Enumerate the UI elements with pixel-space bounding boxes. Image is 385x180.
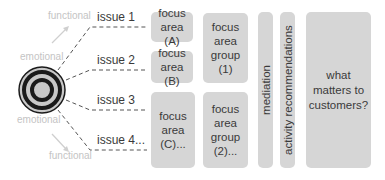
activity-recommendations-box: activity recommendations	[280, 12, 295, 168]
focus-area-c-box: focus area (C)...	[151, 92, 195, 168]
issue-2-label: issue 2	[97, 53, 135, 67]
bottom-functional-label: functional	[49, 150, 92, 161]
target-icon	[19, 67, 65, 113]
focus-area-b-label: focus area (B)	[153, 46, 191, 88]
focus-area-a-box: focus area (A)	[151, 12, 193, 42]
focus-area-b-box: focus area (B)	[151, 51, 193, 83]
focus-area-a-label: focus area (A)	[153, 6, 191, 48]
top-emotional-label: emotional	[20, 51, 63, 62]
mediation-label: mediation	[259, 65, 273, 115]
what-matters-label: what matters to customers?	[309, 68, 368, 113]
what-matters-box: what matters to customers?	[306, 12, 371, 168]
focus-area-group-1-box: focus area group (1)	[203, 13, 248, 83]
arrow-up-right-icon	[52, 26, 69, 43]
focus-area-group-1-label: focus area group (1)	[209, 20, 242, 76]
focus-area-group-2-label: focus area group (2)...	[209, 102, 242, 158]
activity-recommendations-label: activity recommendations	[281, 25, 295, 155]
issue-1-label: issue 1	[97, 10, 135, 24]
issue-4-label: issue 4...	[97, 133, 145, 147]
focus-area-c-label: focus area (C)...	[157, 109, 189, 151]
dashed-connectors	[58, 27, 147, 150]
focus-area-group-2-box: focus area group (2)...	[203, 92, 248, 168]
bottom-emotional-label: emotional	[17, 114, 60, 125]
mediation-box: mediation	[258, 12, 273, 168]
top-functional-label: functional	[48, 10, 91, 21]
issue-3-label: issue 3	[97, 93, 135, 107]
